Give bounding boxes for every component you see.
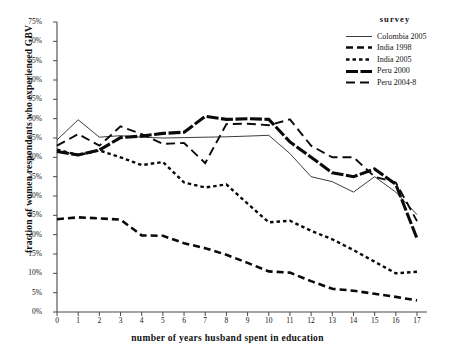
legend-line-swatch	[345, 42, 373, 53]
series-line-india-2005	[57, 150, 417, 274]
legend-item[interactable]: Peru 2004-8	[345, 77, 455, 89]
legend-label: Colombia 2005	[377, 31, 427, 43]
series-line-india-1998	[57, 217, 417, 300]
legend-item[interactable]: Peru 2000	[345, 65, 455, 77]
legend-item[interactable]: India 2005	[345, 54, 455, 66]
legend-title: survey	[345, 14, 455, 26]
legend-label: India 2005	[377, 54, 411, 66]
legend: survey Colombia 2005India 1998India 2005…	[345, 14, 455, 89]
series-line-peru-2004-8	[57, 119, 417, 221]
legend-entries: Colombia 2005India 1998India 2005Peru 20…	[345, 31, 455, 89]
legend-item[interactable]: India 1998	[345, 42, 455, 54]
legend-label: India 1998	[377, 42, 411, 54]
legend-line-swatch	[345, 54, 373, 65]
legend-line-swatch	[345, 66, 373, 77]
legend-line-swatch	[345, 31, 373, 42]
legend-line-swatch	[345, 77, 373, 88]
legend-label: Peru 2004-8	[377, 77, 416, 89]
legend-label: Peru 2000	[377, 65, 410, 77]
chart-container: fraction of women respondents who experi…	[0, 0, 455, 355]
legend-item[interactable]: Colombia 2005	[345, 31, 455, 43]
